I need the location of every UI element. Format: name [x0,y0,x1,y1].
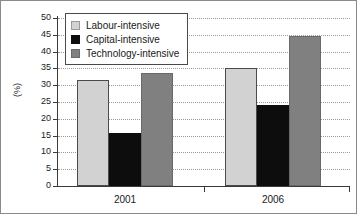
bar-chart-figure: 50454035302520151050 (%) 20012006 Labour… [0,0,357,214]
x-axis-category-label-2001: 2001 [85,194,165,205]
x-axis-tick-mark [349,187,350,192]
x-axis-tick-mark [204,187,205,192]
x-axis-category-label-2006: 2006 [233,194,313,205]
bar-technology-intensive-2001 [141,73,173,186]
legend-swatch-icon [71,49,80,58]
legend-item-labour-intensive[interactable]: Labour-intensive [71,18,179,32]
y-axis-tick-label: 10 [3,147,51,156]
y-axis-tick-label: 20 [3,114,51,123]
legend-swatch-icon [71,35,80,44]
y-axis-tick-label: 45 [3,30,51,39]
bar-labour-intensive-2001 [77,80,109,186]
y-axis-tick-labels: 50454035302520151050 [1,1,51,214]
y-axis-tick-label: 30 [3,80,51,89]
legend-item-label: Technology-intensive [86,48,179,59]
bar-labour-intensive-2006 [225,68,257,186]
legend-item-label: Labour-intensive [86,20,160,31]
y-axis-tick-label: 35 [3,63,51,72]
y-axis-tick-label: 15 [3,131,51,140]
bar-capital-intensive-2001 [109,133,141,186]
bar-capital-intensive-2006 [257,105,289,186]
y-axis-tick-label: 40 [3,47,51,56]
y-axis-tick-label: 5 [3,164,51,173]
bar-technology-intensive-2006 [289,36,321,186]
y-axis-tick-label: 50 [3,13,51,22]
y-axis-tick-label: 0 [3,181,51,190]
legend-item-label: Capital-intensive [86,34,160,45]
y-axis-title: (%) [12,83,22,97]
y-axis-tick-label: 25 [3,97,51,106]
chart-legend: Labour-intensiveCapital-intensiveTechnol… [65,13,188,65]
legend-swatch-icon [71,21,80,30]
legend-item-capital-intensive[interactable]: Capital-intensive [71,32,179,46]
legend-item-technology-intensive[interactable]: Technology-intensive [71,46,179,60]
